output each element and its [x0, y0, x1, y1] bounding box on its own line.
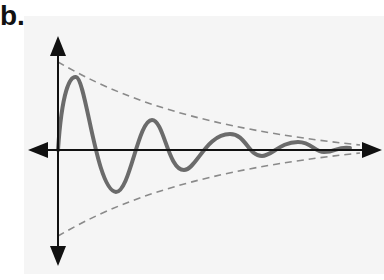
damped-wave-curve — [58, 77, 350, 192]
damped-oscillation-diagram — [0, 0, 384, 280]
upper-envelope — [58, 62, 360, 145]
lower-envelope — [58, 153, 360, 236]
